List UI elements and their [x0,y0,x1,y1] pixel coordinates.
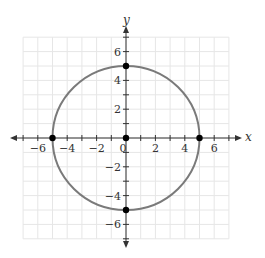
y-tick-label: −4 [105,190,121,203]
x-tick-label: −6 [30,142,46,155]
y-tick-label: 4 [114,74,121,87]
data-point [123,207,129,213]
y-tick-label: 2 [114,103,121,116]
data-point [123,135,129,141]
y-axis-up-arrow-icon [123,26,129,33]
y-axis-down-arrow-icon [123,241,129,248]
y-axis-label: y [122,13,130,27]
data-point [123,63,129,69]
data-point [196,135,202,141]
x-tick-label: −4 [59,142,75,155]
x-axis-label: x [245,130,252,144]
x-tick-label: 2 [152,142,159,155]
y-tick-label: −2 [105,161,121,174]
x-tick-label: 4 [181,142,188,155]
x-tick-label: 6 [211,142,218,155]
x-tick-label: 0 [120,142,127,155]
circle-graph: −6−4−20246642−2−4−6 x y [0,0,265,258]
x-axis-left-arrow-icon [10,135,17,141]
y-tick-label: 6 [114,46,121,59]
x-tick-label: −2 [88,142,104,155]
x-axis-right-arrow-icon [235,135,242,141]
y-tick-label: −6 [105,218,121,231]
data-point [49,135,55,141]
